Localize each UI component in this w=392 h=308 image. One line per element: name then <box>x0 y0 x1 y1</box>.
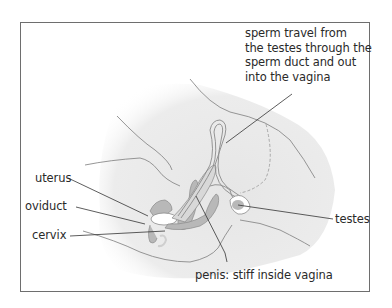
label-cervix: cervix <box>32 228 66 243</box>
callout-line: into the vagina <box>245 70 372 85</box>
label-penis: penis: stiff inside vagina <box>195 268 333 283</box>
label-testes: testes <box>335 212 370 227</box>
callout-line: sperm travel from <box>245 26 372 41</box>
label-uterus: uterus <box>35 171 71 186</box>
callout-line: sperm duct and out <box>245 55 372 70</box>
callout-line: the testes through the <box>245 41 372 56</box>
label-oviduct: oviduct <box>25 199 67 214</box>
sperm-path-callout: sperm travel from the testes through the… <box>245 26 372 84</box>
